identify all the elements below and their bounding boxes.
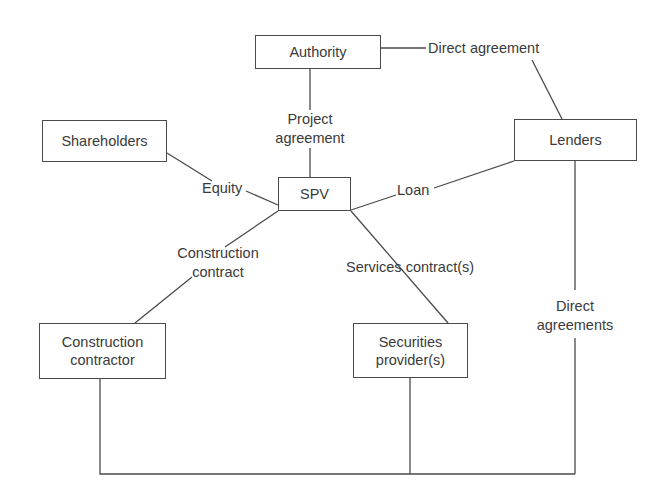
node-securities-provider: Securities provider(s) xyxy=(353,323,468,378)
edge-equity-upper xyxy=(167,153,212,181)
node-securities-provider-label: Securities provider(s) xyxy=(376,333,445,369)
node-lenders: Lenders xyxy=(514,119,637,161)
node-construction-contractor-label: Construction contractor xyxy=(62,333,143,369)
edge-direct-agreements-bus xyxy=(100,379,575,474)
edge-construction-contract-lower xyxy=(135,277,192,323)
edge-label-services-contracts: Services contract(s) xyxy=(346,258,492,277)
edge-label-equity: Equity xyxy=(202,179,252,198)
node-spv-label: SPV xyxy=(300,185,329,203)
node-spv: SPV xyxy=(278,177,351,211)
connector-lines xyxy=(0,0,668,497)
edge-label-construction-contract: Construction contract xyxy=(165,244,271,281)
edge-loan-right xyxy=(434,161,514,188)
node-construction-contractor: Construction contractor xyxy=(39,323,166,379)
edge-loan-left xyxy=(351,195,396,210)
node-authority: Authority xyxy=(255,35,381,69)
edge-direct-agreement-diagonal xyxy=(532,60,562,119)
node-authority-label: Authority xyxy=(289,43,346,61)
edge-label-project-agreement: Project agreement xyxy=(265,110,355,147)
edge-label-direct-agreement: Direct agreement xyxy=(428,39,556,58)
edge-label-direct-agreements: Direct agreements xyxy=(530,297,620,334)
edge-label-loan: Loan xyxy=(397,181,437,200)
edge-construction-contract-upper xyxy=(225,211,278,247)
node-shareholders-label: Shareholders xyxy=(61,132,147,150)
node-shareholders: Shareholders xyxy=(42,120,167,162)
node-lenders-label: Lenders xyxy=(549,131,601,149)
